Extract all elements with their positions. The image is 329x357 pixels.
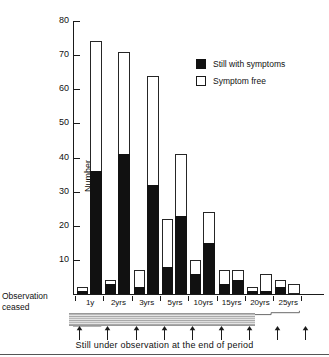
y-tick-label-30: 30: [59, 187, 69, 196]
y-tick-label-wrap-10: 10: [46, 255, 69, 265]
y-tick-label-80: 80: [59, 16, 69, 25]
legend-label-symptom-free: Symptom free: [213, 76, 266, 86]
bar-ceased-symptoms-1: [105, 284, 116, 294]
observation-arrow-1: [104, 326, 111, 340]
bar-observed-symptoms-5: [232, 280, 244, 294]
observation-arrow-7: [274, 326, 281, 340]
observation-arrow-3: [161, 326, 168, 340]
y-tick-label-40: 40: [59, 153, 69, 162]
bar-observed-symptoms-1: [118, 154, 130, 294]
figure-bottom-rule: [0, 354, 329, 355]
y-tick-label-10: 10: [59, 255, 69, 264]
y-tick-label-20: 20: [59, 221, 69, 230]
observation-ceased-label-line2: ceased: [2, 302, 48, 313]
y-tick-label-60: 60: [59, 84, 69, 93]
observation-arrow-0: [76, 326, 83, 340]
chart-legend: Still with symptoms Symptom free: [196, 58, 285, 92]
y-tick-label-wrap-50: 50: [46, 118, 69, 128]
bar-observed-symptoms-6: [260, 291, 272, 294]
x-axis-line: [73, 294, 324, 295]
legend-item-still-with-symptoms: Still with symptoms: [196, 58, 285, 70]
y-tick-label-wrap-20: 20: [46, 221, 69, 231]
bar-observed-symptoms-3: [175, 216, 187, 294]
legend-item-symptom-free: Symptom free: [196, 75, 285, 87]
observation-arrow-4: [189, 326, 196, 340]
bar-ceased-symptoms-4: [190, 274, 201, 294]
observation-ceased-band: [69, 313, 255, 326]
x-axis-caption: Still under observation at the end of pe…: [0, 340, 329, 351]
legend-label-still-with-symptoms: Still with symptoms: [213, 59, 285, 69]
y-tick-label-wrap-70: 70: [46, 50, 69, 60]
observation-arrow-8: [302, 326, 309, 340]
bar-ceased-symptoms-2: [134, 287, 145, 294]
bar-ceased-symptoms-3: [162, 267, 173, 294]
y-tick-label-wrap-40: 40: [46, 153, 69, 163]
observation-ceased-label: Observation ceased: [2, 291, 48, 313]
observation-arrow-2: [133, 326, 140, 340]
y-tick-label-50: 50: [59, 118, 69, 127]
observation-ceased-label-line1: Observation: [2, 291, 48, 302]
y-tick-label-wrap-30: 30: [46, 187, 69, 197]
y-tick-label-wrap-80: 80: [46, 16, 69, 26]
legend-swatch-hollow-icon: [196, 76, 206, 86]
bar-ceased-symptoms-0: [77, 291, 88, 294]
bar-ceased-symptoms-5: [219, 284, 230, 294]
observation-arrow-6: [246, 326, 253, 340]
observation-arrow-5: [218, 326, 225, 340]
bar-ceased-symptoms-6: [247, 291, 258, 294]
bar-observed-symptoms-2: [147, 185, 159, 294]
y-tick-label-70: 70: [59, 50, 69, 59]
bar-ceased-symptoms-7: [275, 287, 286, 294]
legend-swatch-filled-icon: [196, 59, 206, 69]
bar-observed-total-7: [288, 284, 300, 294]
figure-chart: 8070605040302010 Number Still with sympt…: [0, 0, 329, 357]
y-tick-label-wrap-60: 60: [46, 84, 69, 94]
bar-observed-symptoms-4: [203, 243, 215, 294]
bar-observed-symptoms-0: [90, 171, 102, 294]
